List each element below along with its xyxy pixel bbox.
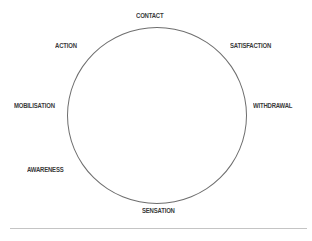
cycle-circle [67, 27, 247, 204]
stage-awareness: AWARENESS [27, 166, 63, 173]
stage-sensation: SENSATION [142, 207, 175, 214]
stage-satisfaction: SATISFACTION [230, 42, 271, 49]
stage-action: ACTION [55, 42, 77, 49]
divider-line [10, 228, 307, 229]
stage-withdrawal: WITHDRAWAL [253, 102, 292, 109]
stage-mobilisation: MOBILISATION [14, 102, 55, 109]
stage-contact: CONTACT [136, 12, 163, 19]
